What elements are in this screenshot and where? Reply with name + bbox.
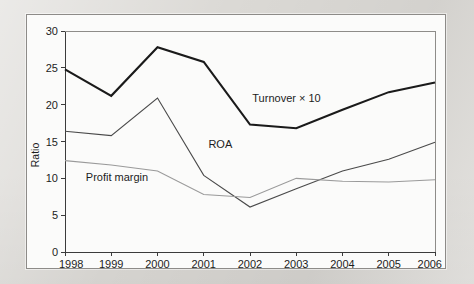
axis-lines [65, 31, 435, 252]
x-tick-label: 2001 [192, 258, 216, 268]
y-tick-label: 0 [52, 246, 58, 258]
x-tick-label: 2004 [330, 258, 354, 268]
figure-panel: 051015202530 199819992000200120022003200… [26, 14, 446, 269]
x-axis-ticks: 199819992000200120022003200420052006 [59, 252, 442, 268]
x-tick-label: 2005 [377, 258, 401, 268]
x-tick-label: 2003 [284, 258, 308, 268]
series-annotation-profit-margin: Profit margin [86, 171, 148, 183]
y-axis-ticks: 051015202530 [46, 25, 65, 258]
plot-frame [65, 31, 435, 252]
y-tick-label: 20 [46, 99, 58, 111]
y-tick-label: 25 [46, 62, 58, 74]
y-tick-label: 10 [46, 172, 58, 184]
chart-plot-area: 051015202530 199819992000200120022003200… [27, 15, 445, 268]
series-line-roa [65, 98, 435, 207]
y-axis-title: Ratio [29, 143, 41, 168]
series-annotations: Turnover × 10ROAProfit margin [86, 92, 321, 184]
x-tick-label: 2006 [418, 258, 442, 268]
series-annotation-turnover-10: Turnover × 10 [252, 92, 320, 104]
y-tick-label: 15 [46, 136, 58, 148]
x-tick-label: 1998 [59, 258, 83, 268]
x-tick-label: 2000 [145, 258, 169, 268]
series-annotation-roa: ROA [208, 138, 233, 150]
series-line-turnover-10 [65, 47, 435, 128]
line-chart: 051015202530 199819992000200120022003200… [27, 15, 447, 268]
x-tick-label: 2002 [238, 258, 262, 268]
y-tick-label: 30 [46, 25, 58, 37]
x-tick-label: 1999 [99, 258, 123, 268]
plot-border [65, 31, 435, 252]
y-tick-label: 5 [52, 209, 58, 221]
